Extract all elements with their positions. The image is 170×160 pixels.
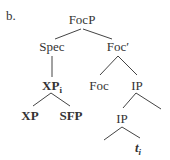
edge-focp-spec xyxy=(55,29,81,39)
edge-focbar-foc xyxy=(100,56,118,75)
edge-ip1-ip2 xyxy=(123,93,136,108)
node-ip-lower: IP xyxy=(116,111,128,126)
edge-focp-focbar xyxy=(83,29,112,39)
edge-ip2-left xyxy=(104,127,122,140)
node-xp: XP xyxy=(21,108,38,123)
example-label: b. xyxy=(6,8,16,23)
edge-ip2-trace xyxy=(122,127,140,138)
node-trace: ti xyxy=(135,140,142,157)
node-trace-subscript: i xyxy=(139,147,142,157)
node-focp: FocP xyxy=(69,12,96,27)
node-sfp: SFP xyxy=(59,108,82,123)
node-ip-upper: IP xyxy=(131,78,143,93)
edge-focbar-ip xyxy=(118,56,137,75)
node-spec: Spec xyxy=(39,39,65,54)
node-foc: Foc xyxy=(89,78,109,93)
node-xp-i-subscript: i xyxy=(59,85,62,95)
syntax-tree: b. FocP Spec Foc′ XPi Foc IP XP SFP IP t… xyxy=(0,0,170,160)
node-xp-i: XPi xyxy=(42,78,62,95)
node-foc-bar: Foc′ xyxy=(107,39,130,54)
edge-ip1-right xyxy=(136,93,161,109)
edge-xpi-xp xyxy=(33,93,51,106)
node-xp-i-base: XP xyxy=(42,78,59,93)
